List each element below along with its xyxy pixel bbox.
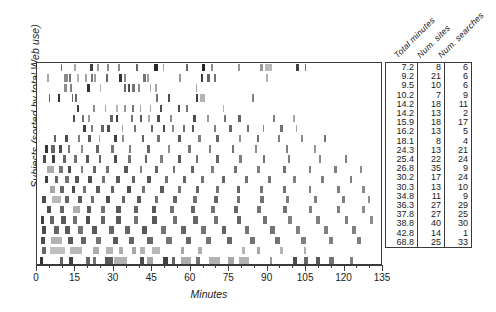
subject-timeline-row[interactable]	[37, 185, 381, 195]
web-use-event-mark	[163, 64, 165, 71]
web-use-event-mark	[116, 115, 118, 122]
subject-timeline-row[interactable]	[37, 73, 381, 83]
x-tick-label: 15	[59, 272, 89, 283]
web-use-event-mark	[119, 247, 123, 254]
web-use-event-mark	[150, 84, 152, 91]
subject-timeline-row[interactable]	[37, 93, 381, 103]
x-tick-major	[74, 265, 75, 271]
subject-timeline-row[interactable]	[37, 63, 381, 73]
web-use-event-mark	[101, 125, 104, 132]
web-use-event-mark	[172, 257, 176, 264]
web-use-event-mark	[106, 196, 110, 203]
web-use-event-mark	[124, 84, 127, 91]
web-use-event-mark	[78, 226, 83, 233]
web-use-event-mark	[181, 247, 185, 254]
web-use-event-mark	[257, 247, 260, 254]
x-tick-label: 105	[290, 272, 320, 283]
web-use-event-mark	[51, 237, 62, 244]
subject-timeline-row[interactable]	[37, 205, 381, 215]
subject-timeline-row[interactable]	[37, 154, 381, 164]
web-use-event-mark	[40, 257, 43, 264]
timeline-plot-area[interactable]	[36, 62, 382, 265]
x-tick-major	[305, 265, 306, 271]
subject-timeline-row[interactable]	[37, 256, 381, 265]
web-use-event-mark	[370, 216, 373, 223]
web-use-event-mark	[60, 186, 64, 193]
web-use-event-mark	[280, 247, 283, 254]
subject-timeline-row[interactable]	[37, 175, 381, 185]
subject-timeline-row[interactable]	[37, 195, 381, 205]
subject-timeline-row[interactable]	[37, 124, 381, 134]
web-use-event-mark	[301, 135, 303, 142]
web-use-event-mark	[234, 166, 237, 173]
web-use-event-mark	[107, 125, 109, 132]
subject-timeline-row[interactable]	[37, 83, 381, 93]
web-use-event-mark	[181, 226, 186, 233]
web-use-event-mark	[296, 226, 300, 233]
subject-timeline-row[interactable]	[37, 246, 381, 256]
x-tick-label: 90	[252, 272, 282, 283]
web-use-event-mark	[81, 166, 84, 173]
web-use-event-mark	[268, 176, 271, 183]
web-use-event-mark	[77, 105, 79, 112]
x-tick-minor	[356, 265, 357, 268]
web-use-event-mark	[114, 257, 127, 264]
web-use-event-mark	[87, 84, 90, 91]
web-use-event-mark	[192, 125, 194, 132]
table-row[interactable]: 9.2216	[386, 72, 472, 81]
web-use-event-mark	[47, 206, 51, 213]
x-tick-minor	[100, 265, 101, 268]
web-use-event-mark	[129, 145, 131, 152]
web-use-event-mark	[152, 216, 157, 223]
table-row[interactable]: 68.82533	[386, 238, 472, 248]
subject-timeline-row[interactable]	[37, 134, 381, 144]
web-use-event-mark	[59, 145, 62, 152]
subject-timeline-row[interactable]	[37, 236, 381, 246]
web-use-event-mark	[296, 125, 298, 132]
web-use-event-mark	[90, 64, 94, 71]
web-use-event-mark	[206, 237, 211, 244]
web-use-event-mark	[211, 206, 215, 213]
summary-stats-table: 7.2869.22169.510610.27914.2181114.213215…	[385, 62, 472, 265]
web-use-event-mark	[147, 257, 153, 264]
web-use-event-mark	[237, 196, 241, 203]
x-axis-label: Minutes	[36, 288, 382, 300]
web-use-event-mark	[43, 155, 46, 162]
web-use-event-mark	[106, 74, 108, 81]
web-use-event-mark	[237, 216, 241, 223]
x-tick-major	[267, 265, 268, 271]
web-use-event-mark	[134, 206, 138, 213]
web-use-event-mark	[173, 196, 177, 203]
web-use-event-mark	[73, 115, 75, 122]
web-use-event-mark	[191, 166, 194, 173]
web-use-event-mark	[140, 115, 142, 122]
subject-timeline-row[interactable]	[37, 165, 381, 175]
subject-timeline-row[interactable]	[37, 144, 381, 154]
web-use-event-mark	[309, 186, 312, 193]
web-use-event-mark	[209, 145, 211, 152]
web-use-event-mark	[160, 186, 164, 193]
web-use-event-mark	[75, 176, 78, 183]
table-row[interactable]: 7.286	[386, 63, 472, 73]
web-use-event-mark	[157, 115, 160, 122]
web-use-event-mark	[106, 247, 113, 254]
web-use-event-mark	[324, 135, 326, 142]
web-use-event-mark	[178, 135, 181, 142]
web-use-event-mark	[178, 105, 180, 112]
web-use-event-mark	[337, 186, 340, 193]
web-use-event-mark	[93, 257, 95, 264]
web-use-event-mark	[173, 216, 177, 223]
subject-timeline-row[interactable]	[37, 215, 381, 225]
subject-timeline-row[interactable]	[37, 225, 381, 235]
web-use-event-mark	[152, 206, 156, 213]
web-use-event-mark	[350, 176, 353, 183]
web-use-event-mark	[69, 257, 73, 264]
web-use-timeline-figure: Subjects (sorted by total Web use) 01530…	[0, 0, 496, 312]
web-use-event-mark	[96, 186, 100, 193]
subject-timeline-row[interactable]	[37, 114, 381, 124]
x-tick-major	[151, 265, 152, 271]
web-use-event-mark	[186, 105, 188, 112]
web-use-event-mark	[270, 226, 274, 233]
subject-timeline-row[interactable]	[37, 104, 381, 114]
web-use-event-mark	[155, 84, 157, 91]
